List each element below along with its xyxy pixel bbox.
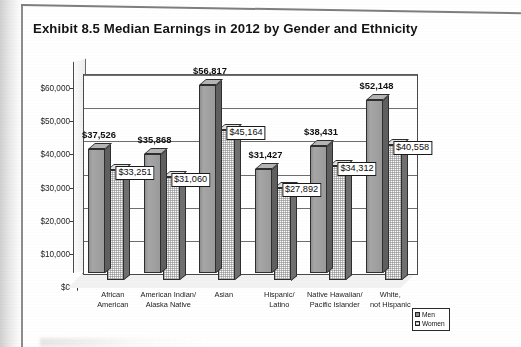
bar-group (305, 74, 361, 287)
x-axis-category-label: Asian (215, 290, 234, 300)
bar-men (255, 169, 272, 273)
y-axis-tick-label: $30,000 (40, 183, 70, 192)
x-axis-category-line: Latino (264, 300, 294, 310)
bar-face-side (327, 141, 333, 273)
bar-face-front (255, 169, 272, 273)
x-axis-category-line: Pacific Islander (307, 300, 362, 310)
x-axis-category-line: Hispanic/ (264, 290, 294, 300)
page-edge-shadow (0, 0, 22, 347)
y-axis-tick-label: $50,000 (40, 117, 70, 126)
x-axis-category-line: African (97, 290, 128, 300)
x-axis-category-line: Asian (215, 290, 234, 300)
chart-legend: Men Women (412, 308, 450, 331)
bar-face-side (383, 95, 389, 273)
x-axis-category-label: AfricanAmerican (97, 290, 128, 309)
bar-value-label-men: $38,431 (304, 126, 338, 137)
bar-group (250, 74, 306, 287)
bar-value-label-women: $45,164 (226, 126, 265, 140)
bar-face-side (402, 140, 408, 280)
bar-series-layer: $37,526$33,251$35,868$31,060$56,817$45,1… (83, 74, 416, 287)
scan-smudge (40, 338, 210, 347)
y-axis-labels: $60,000$50,000$40,000$30,000$20,000$10,0… (24, 62, 70, 300)
y-axis-tick-label: $20,000 (40, 216, 70, 225)
y-axis-tick-label: $60,000 (40, 84, 70, 93)
x-axis-category-label: Native Hawaiian/Pacific Islander (307, 290, 362, 309)
bar-value-label-women: $34,312 (337, 162, 376, 176)
bar-value-label-men: $31,427 (249, 149, 283, 160)
legend-label-women: Women (422, 320, 445, 328)
legend-item-men: Men (415, 310, 445, 319)
x-axis-category-label: Hispanic/Latino (264, 290, 294, 309)
bar-value-label-women: $40,558 (393, 141, 432, 155)
bar-value-label-women: $33,251 (115, 166, 154, 180)
bar-value-label-women: $27,892 (282, 183, 321, 197)
x-axis-category-line: Alaska Native (141, 300, 196, 310)
bar-face-side (235, 125, 241, 280)
bar-value-label-men: $52,148 (360, 80, 394, 91)
chart-figure: $60,000$50,000$40,000$30,000$20,000$10,0… (24, 62, 416, 300)
legend-swatch-men-icon (415, 312, 420, 317)
x-axis-category-line: White, (370, 290, 411, 300)
y-axis-tick-label: $10,000 (40, 249, 70, 258)
x-axis-category-line: American (97, 300, 128, 310)
bar-face-side (105, 144, 111, 273)
bar-face-side (272, 164, 278, 273)
x-axis-category-line: Native Hawaiian/ (307, 290, 362, 300)
page-border-left (21, 6, 23, 347)
y-axis-tick-label: $40,000 (40, 150, 70, 159)
bar-men (310, 146, 327, 273)
bar-face-front (366, 100, 383, 273)
bar-value-label-men: $37,526 (82, 129, 116, 140)
bar-face-side (346, 161, 352, 280)
bar-value-label-men: $35,868 (138, 134, 172, 145)
bar-face-side (124, 165, 130, 280)
bar-face-side (180, 172, 186, 280)
x-axis-category-label: White,not Hispanic (370, 290, 411, 309)
bar-value-label-women: $31,060 (171, 173, 210, 187)
bar-men (88, 149, 105, 273)
bar-face-side (161, 149, 167, 273)
x-axis-category-label: American Indian/Alaska Native (141, 290, 196, 309)
bar-face-front (88, 149, 105, 273)
bar-value-label-men: $56,817 (193, 65, 227, 76)
page-title: Exhibit 8.5 Median Earnings in 2012 by G… (33, 21, 418, 36)
x-axis-category-line: not Hispanic (370, 300, 411, 310)
bar-face-front (310, 146, 327, 273)
bar-men (366, 100, 383, 273)
legend-swatch-women-icon (415, 321, 420, 326)
legend-item-women: Women (415, 319, 445, 328)
x-axis-category-line: American Indian/ (141, 290, 196, 300)
bar-group (361, 74, 417, 287)
bar-face-side (216, 80, 222, 273)
legend-label-men: Men (422, 311, 435, 319)
x-axis-labels: AfricanAmericanAmerican Indian/Alaska Na… (83, 290, 428, 324)
bar-group (83, 74, 139, 287)
page-border-top (21, 4, 521, 14)
